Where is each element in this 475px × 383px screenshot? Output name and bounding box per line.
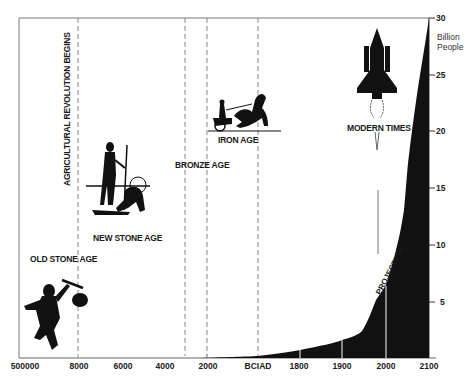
x-tick-label: 6000 xyxy=(114,361,133,371)
y-tick-label: 30 xyxy=(436,13,445,23)
x-tick-label: 500000 xyxy=(11,361,39,371)
x-tick-label: 2100 xyxy=(420,361,439,371)
population-area xyxy=(200,18,429,358)
y-ticks xyxy=(429,18,435,302)
x-tick-label: BCIAD xyxy=(245,361,272,371)
y-axis-unit: Billion People xyxy=(437,32,463,52)
modern-times-label: MODERN TIMES xyxy=(347,123,411,133)
x-tick-label: 1900 xyxy=(333,361,352,371)
y-tick-label: 15 xyxy=(436,183,445,193)
x-tick-label: 2000 xyxy=(199,361,218,371)
old-stone-age-label: OLD STONE AGE xyxy=(30,254,97,264)
new-stone-age-label: NEW STONE AGE xyxy=(93,233,162,243)
farmers-icon xyxy=(86,142,150,215)
x-ticks xyxy=(78,354,207,358)
y-tick-label: 25 xyxy=(436,70,445,80)
x-tick-label: 2000 xyxy=(377,361,396,371)
bronze-age-label: BRONZE AGE xyxy=(175,160,229,170)
y-tick-label: 20 xyxy=(436,126,445,136)
y-tick-label: 10 xyxy=(436,240,445,250)
y-tick-label: 5 xyxy=(440,297,445,307)
iron-age-label: IRON AGE xyxy=(218,135,258,145)
x-tick-label: 8000 xyxy=(70,361,89,371)
agricultural-revolution-label: AGRICULTURAL REVOLUTION BEGINS xyxy=(62,32,72,186)
x-tick-label: 4000 xyxy=(156,361,175,371)
chariot-icon xyxy=(208,94,281,131)
x-tick-label: 1800 xyxy=(290,361,309,371)
